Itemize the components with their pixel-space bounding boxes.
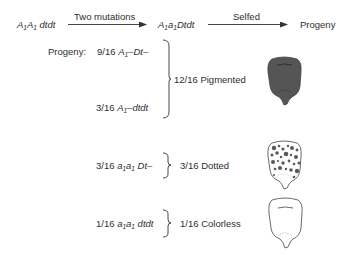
dotted-kernel-icon <box>268 141 301 189</box>
colorless-kernel-icon <box>269 198 302 248</box>
diagram-graphics <box>0 0 338 255</box>
bracket-colorless <box>163 210 171 237</box>
pigmented-kernel-icon <box>268 57 301 105</box>
bracket-dotted <box>163 153 171 178</box>
bracket-pigmented <box>163 40 171 118</box>
